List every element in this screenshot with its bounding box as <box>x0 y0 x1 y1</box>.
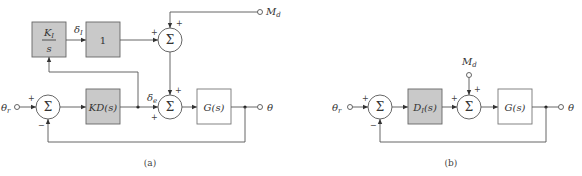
svg-text:−: − <box>370 121 377 130</box>
plant-block: G(s) <box>197 89 231 124</box>
disturbance-port <box>258 10 263 15</box>
sum-junction-1: Σ <box>368 95 392 119</box>
sum-junction-1: Σ <box>36 95 60 119</box>
svg-text:+: + <box>362 94 369 103</box>
controller-block: DI(s) <box>408 89 442 124</box>
reference-label: θr <box>332 102 342 115</box>
svg-text:Σ: Σ <box>44 100 52 114</box>
svg-text:KD(s): KD(s) <box>88 102 118 113</box>
svg-text:Σ: Σ <box>376 100 384 114</box>
output-label: θ <box>568 102 574 113</box>
sum-junction-top: Σ <box>158 28 182 52</box>
svg-text:+: + <box>175 86 182 95</box>
svg-text:s: s <box>46 43 51 54</box>
controller-block: KD(s) <box>86 89 120 124</box>
block-diagrams: KI s δI 1 + Σ + Md + θr + <box>0 0 582 176</box>
output-label: θ <box>267 102 273 113</box>
svg-text:+: + <box>451 94 458 103</box>
svg-text:+: + <box>474 85 481 94</box>
delta-e-label: δe <box>147 92 157 105</box>
svg-text:−: − <box>38 121 45 130</box>
svg-text:+: + <box>176 19 183 28</box>
svg-text:G(s): G(s) <box>505 102 526 113</box>
svg-text:1: 1 <box>100 35 106 46</box>
svg-text:+: + <box>28 94 35 103</box>
unity-block: 1 <box>86 22 120 57</box>
svg-text:+: + <box>151 28 158 37</box>
reference-port <box>15 105 20 110</box>
disturbance-label: Md <box>265 6 281 19</box>
diagram-b: θr + Σ − DI(s) + Σ Md + <box>332 56 574 168</box>
caption-b: (b) <box>445 158 458 168</box>
caption-a: (a) <box>144 158 156 168</box>
sum-junction-2: Σ <box>457 95 481 119</box>
svg-text:+: + <box>151 113 158 122</box>
integrator-block: KI s <box>32 22 66 57</box>
reference-label: θr <box>1 102 11 115</box>
svg-text:Σ: Σ <box>166 33 174 47</box>
disturbance-port <box>467 73 472 78</box>
output-port <box>258 105 263 110</box>
plant-block: G(s) <box>498 89 532 124</box>
reference-port <box>348 105 353 110</box>
svg-text:G(s): G(s) <box>204 102 225 113</box>
output-port <box>559 105 564 110</box>
svg-text:Σ: Σ <box>465 100 473 114</box>
sum-junction-2: Σ <box>158 95 182 119</box>
diagram-a: KI s δI 1 + Σ + Md + θr + <box>1 6 281 168</box>
delta-i-label: δI <box>74 24 83 37</box>
svg-text:Σ: Σ <box>166 100 174 114</box>
disturbance-label: Md <box>461 56 477 69</box>
